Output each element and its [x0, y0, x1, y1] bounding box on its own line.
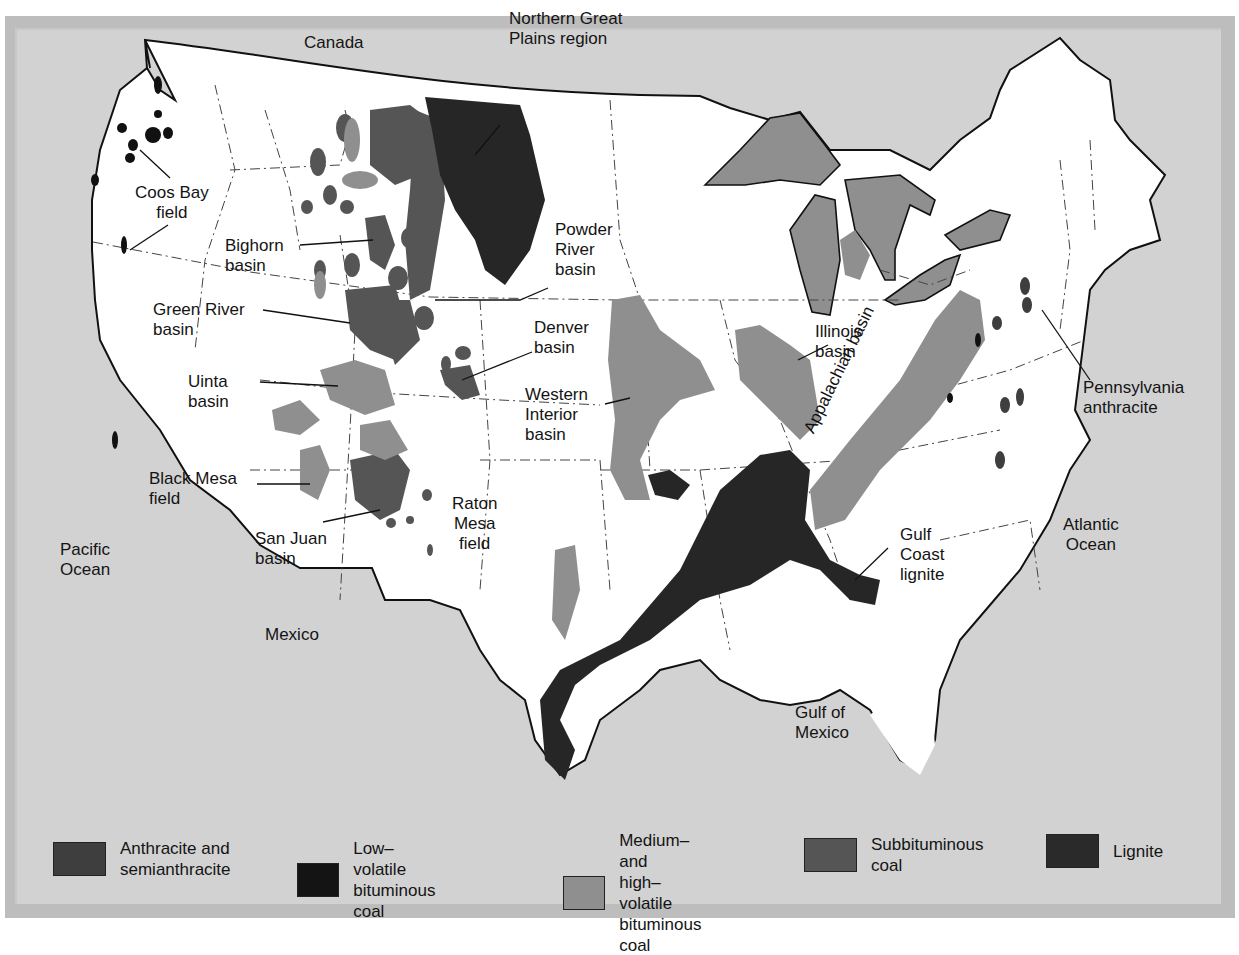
legend-item-low-volatile: Low–volatile bituminous coal	[297, 838, 446, 922]
label-powder-river: Powder River basin	[555, 220, 613, 280]
label-green-river: Green River basin	[153, 300, 245, 340]
legend-swatch	[297, 863, 339, 897]
label-bighorn: Bighorn basin	[225, 236, 284, 276]
label-san-juan: San Juan basin	[255, 529, 327, 569]
label-canada: Canada	[304, 33, 364, 53]
legend-item-anthracite: Anthracite and semianthracite	[53, 838, 231, 880]
legend-item-lignite: Lignite	[1046, 834, 1163, 868]
legend-swatch	[563, 876, 605, 910]
legend-item-medium-high-volatile: Medium–and high–volatile bituminous coal	[563, 830, 712, 955]
label-gulf-coast-lignite: Gulf Coast lignite	[900, 525, 944, 585]
label-pacific-ocean: Pacific Ocean	[60, 540, 110, 580]
label-western-interior: Western Interior basin	[525, 385, 588, 445]
label-northern-great-plains: Northern Great Plains region	[509, 9, 622, 49]
label-uinta: Uinta basin	[188, 372, 229, 412]
legend-label: Lignite	[1113, 841, 1163, 862]
label-raton-mesa: Raton Mesa field	[452, 494, 497, 554]
label-atlantic-ocean: Atlantic Ocean	[1063, 515, 1119, 555]
legend-item-subbituminous: Subbituminous coal	[804, 834, 983, 876]
legend-label: Low–volatile bituminous coal	[353, 838, 446, 922]
label-denver: Denver basin	[534, 318, 589, 358]
legend-swatch	[1046, 834, 1099, 868]
label-coos-bay: Coos Bay field	[135, 183, 209, 223]
legend-label: Subbituminous coal	[871, 834, 983, 876]
label-gulf-of-mexico: Gulf of Mexico	[795, 703, 849, 743]
label-black-mesa: Black Mesa field	[149, 469, 237, 509]
label-mexico: Mexico	[265, 625, 319, 645]
legend-swatch	[53, 842, 106, 876]
label-pennsylvania-anthracite: Pennsylvania anthracite	[1083, 378, 1184, 418]
legend-label: Medium–and high–volatile bituminous coal	[619, 830, 712, 955]
legend-swatch	[804, 838, 857, 872]
legend-label: Anthracite and semianthracite	[120, 838, 231, 880]
